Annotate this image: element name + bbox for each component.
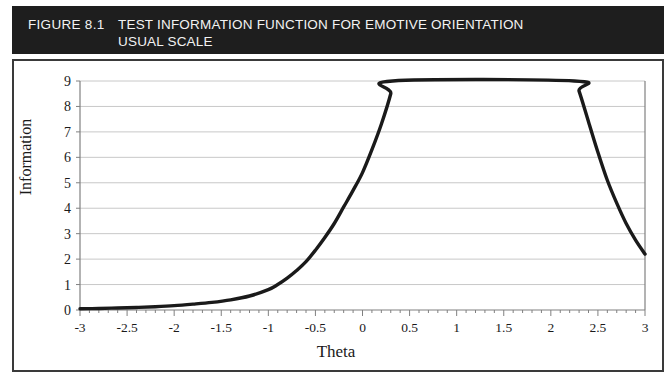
y-tick-label: 5 xyxy=(64,176,71,191)
x-tick-label: -0.5 xyxy=(305,320,327,335)
information-curve xyxy=(80,80,645,309)
x-tick-label: -2.5 xyxy=(116,320,138,335)
y-axis-tick-labels: 0123456789 xyxy=(64,74,71,318)
y-tick-label: 2 xyxy=(64,252,71,267)
x-tick-label: 0 xyxy=(359,320,366,335)
x-axis-tick-labels: -3-2.5-2-1.5-1-0.500.511.522.53 xyxy=(74,320,648,335)
x-tick-label: -2 xyxy=(169,320,180,335)
x-tick-label: -1 xyxy=(263,320,274,335)
x-axis-ticks xyxy=(80,310,645,316)
x-tick-label: 0.5 xyxy=(401,320,418,335)
y-tick-label: 3 xyxy=(64,227,71,242)
figure-header-bar: FIGURE 8.1 TEST INFORMATION FUNCTION FOR… xyxy=(12,6,664,54)
x-axis-title: Theta xyxy=(0,342,672,362)
x-tick-label: 2 xyxy=(547,320,554,335)
curve-segment xyxy=(80,80,645,309)
y-axis-title-wrap: Information xyxy=(14,92,38,232)
figure-number-label: FIGURE 8.1 xyxy=(12,12,118,33)
y-tick-label: 7 xyxy=(64,125,71,140)
x-tick-label: -3 xyxy=(74,320,85,335)
y-tick-label: 9 xyxy=(64,74,71,89)
y-tick-label: 6 xyxy=(64,150,71,165)
y-tick-label: 1 xyxy=(64,278,71,293)
test-information-function-chart: 0123456789 -3-2.5-2-1.5-1-0.500.511.522.… xyxy=(14,61,662,370)
x-tick-label: 2.5 xyxy=(589,320,606,335)
x-tick-label: 3 xyxy=(642,320,649,335)
chart-axes xyxy=(80,81,645,310)
x-tick-label: 1.5 xyxy=(495,320,512,335)
x-tick-label: -1.5 xyxy=(211,320,233,335)
y-tick-label: 4 xyxy=(64,201,71,216)
figure-title: TEST INFORMATION FUNCTION FOR EMOTIVE OR… xyxy=(118,12,524,50)
figure-container: FIGURE 8.1 TEST INFORMATION FUNCTION FOR… xyxy=(0,0,672,381)
chart-gridlines xyxy=(80,81,645,285)
y-tick-label: 8 xyxy=(64,99,71,114)
y-axis-title: Information xyxy=(17,87,35,227)
x-tick-label: 1 xyxy=(453,320,460,335)
chart-frame: 0123456789 -3-2.5-2-1.5-1-0.500.511.522.… xyxy=(12,59,664,372)
y-tick-label: 0 xyxy=(64,303,71,318)
